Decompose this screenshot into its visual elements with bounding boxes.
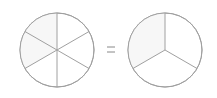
equals-sign [107,47,115,52]
left-circle-sixths [20,13,94,87]
fraction-diagram [0,0,217,98]
right-circle-thirds [128,13,202,87]
